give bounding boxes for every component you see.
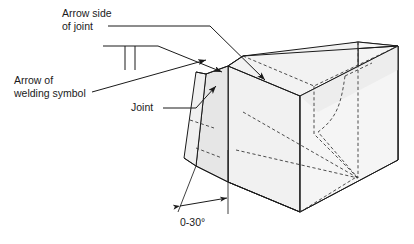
- dim-line: [180, 198, 227, 206]
- workpiece-block: [228, 42, 398, 212]
- label-arrow-side-line2: of joint: [62, 20, 93, 32]
- label-arrow-of-line2: welding symbol: [13, 87, 86, 99]
- label-angle-dimension: 0-30°: [180, 216, 205, 228]
- welding-symbol: [103, 46, 222, 72]
- label-arrow-side-line1: Arrow side: [62, 7, 112, 19]
- beveled-plate: [184, 66, 228, 182]
- symbol-leader-line: [158, 46, 222, 72]
- label-joint: Joint: [131, 101, 153, 113]
- label-arrow-of-line1: Arrow of: [14, 74, 53, 86]
- leader-arrow-of-symbol: [92, 60, 206, 92]
- welding-joint-illustration: Arrow side of joint Arrow of welding sym…: [0, 0, 414, 244]
- diagram-canvas: Arrow side of joint Arrow of welding sym…: [0, 0, 414, 244]
